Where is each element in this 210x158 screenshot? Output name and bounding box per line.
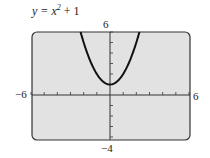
graph-figure: y = x2 + 1 6 −4 −6 6 <box>0 0 210 158</box>
x-max-label: 6 <box>193 91 199 102</box>
y-min-label: −4 <box>101 143 113 154</box>
viewing-window <box>32 32 190 140</box>
x-min-label: −6 <box>15 89 27 100</box>
y-max-label: 6 <box>103 19 109 30</box>
